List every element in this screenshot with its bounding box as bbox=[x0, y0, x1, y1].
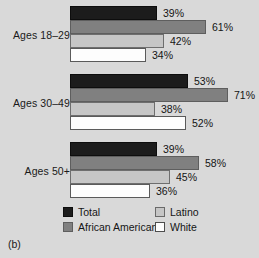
bar-value-african-american-2: 58% bbox=[205, 157, 226, 169]
legend-swatch-white-icon bbox=[155, 222, 165, 232]
bar-latino-2 bbox=[70, 170, 170, 184]
bar-african-american-2 bbox=[70, 156, 199, 170]
bar-total-1 bbox=[70, 74, 188, 88]
legend-label-total: Total bbox=[78, 206, 100, 218]
bar-value-total-0: 39% bbox=[163, 7, 184, 19]
bar-value-white-0: 34% bbox=[152, 49, 173, 61]
bar-group-ages-50-plus: Ages 50+ 39% 58% 45% 36% bbox=[0, 142, 259, 200]
category-label-2: Ages 50+ bbox=[25, 165, 70, 177]
bar-white-0 bbox=[70, 48, 146, 62]
legend-swatch-total-icon bbox=[63, 207, 73, 217]
bar-value-latino-2: 45% bbox=[176, 171, 197, 183]
bar-value-latino-0: 42% bbox=[170, 35, 191, 47]
bar-total-0 bbox=[70, 6, 157, 20]
legend-swatch-african-american-icon bbox=[63, 222, 73, 232]
bar-value-total-1: 53% bbox=[194, 75, 215, 87]
bar-latino-1 bbox=[70, 102, 155, 116]
bar-african-american-1 bbox=[70, 88, 228, 102]
bar-white-1 bbox=[70, 116, 186, 130]
bar-value-african-american-0: 61% bbox=[212, 21, 233, 33]
legend-label-latino: Latino bbox=[170, 206, 199, 218]
legend-item-white: White bbox=[155, 221, 233, 233]
category-label-1: Ages 30–49 bbox=[13, 97, 70, 109]
legend-item-total: Total bbox=[63, 206, 155, 218]
bar-group-ages-18-29: Ages 18–29 39% 61% 42% 34% bbox=[0, 6, 259, 64]
legend-label-african-american: African American bbox=[78, 221, 157, 233]
panel-label: (b) bbox=[8, 238, 21, 250]
bar-value-latino-1: 38% bbox=[161, 103, 182, 115]
legend-item-african-american: African American bbox=[63, 221, 155, 233]
legend-swatch-latino-icon bbox=[155, 207, 165, 217]
bar-african-american-0 bbox=[70, 20, 206, 34]
bar-value-african-american-1: 71% bbox=[234, 89, 255, 101]
category-label-0: Ages 18–29 bbox=[13, 29, 70, 41]
bar-latino-0 bbox=[70, 34, 164, 48]
bar-value-total-2: 39% bbox=[163, 143, 184, 155]
bar-value-white-2: 36% bbox=[156, 185, 177, 197]
bar-chart: Ages 18–29 39% 61% 42% 34% Ages 30–49 bbox=[0, 0, 259, 258]
legend-label-white: White bbox=[170, 221, 197, 233]
bar-group-ages-30-49: Ages 30–49 53% 71% 38% 52% bbox=[0, 74, 259, 132]
chart-legend: Total Latino African American White bbox=[63, 204, 233, 234]
bar-value-white-1: 52% bbox=[192, 117, 213, 129]
bar-white-2 bbox=[70, 184, 150, 198]
legend-item-latino: Latino bbox=[155, 206, 233, 218]
bar-total-2 bbox=[70, 142, 157, 156]
